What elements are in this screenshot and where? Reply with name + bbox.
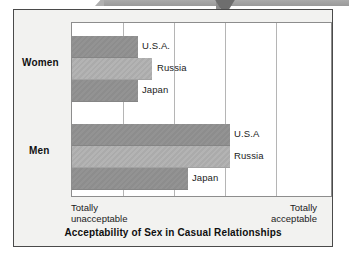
chart-title: Acceptability of Sex in Casual Relations… [14, 227, 332, 238]
bar-women-japan[interactable] [72, 80, 138, 102]
bar-label-men-russia: Russia [234, 151, 264, 161]
bar-men-usa[interactable] [72, 124, 230, 146]
axis-caption-right: Totally acceptable [271, 202, 317, 224]
axis-caption-right-line2: acceptable [271, 213, 317, 224]
axis-caption-left-line2: unacceptable [71, 213, 128, 224]
bar-label-women-usa: U.S.A. [142, 41, 170, 51]
ribbon-band [104, 0, 349, 6]
bar-label-men-japan: Japan [192, 173, 218, 183]
gridline-3 [225, 23, 226, 196]
plot-area: U.S.A. Russia Japan U.S.A Russia Japan [71, 22, 332, 197]
group-label-women: Women [22, 57, 59, 68]
bar-label-men-usa: U.S.A [234, 129, 259, 139]
gridline-4 [276, 23, 277, 196]
group-label-men: Men [29, 145, 50, 156]
bar-label-women-russia: Russia [157, 63, 187, 73]
bar-men-russia[interactable] [72, 146, 230, 168]
bar-label-women-japan: Japan [142, 85, 168, 95]
axis-caption-left: Totally unacceptable [71, 202, 128, 224]
axis-caption-left-line1: Totally [71, 202, 128, 213]
bar-women-russia[interactable] [72, 58, 152, 80]
bar-men-japan[interactable] [72, 168, 188, 190]
figure-frame: U.S.A. Russia Japan U.S.A Russia Japan W… [13, 9, 333, 247]
axis-caption-right-line1: Totally [271, 202, 317, 213]
bar-women-usa[interactable] [72, 36, 138, 58]
